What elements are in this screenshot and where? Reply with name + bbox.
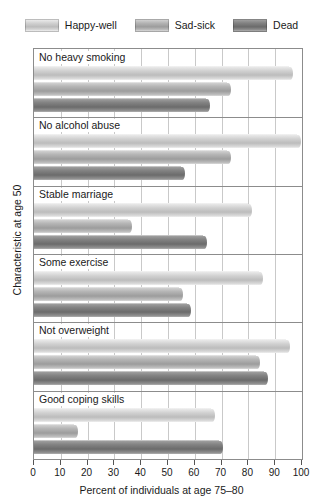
- bar-group: No alcohol abuse: [34, 117, 302, 185]
- legend-label-dead: Dead: [273, 20, 298, 31]
- bar-sad-sick: [34, 82, 227, 96]
- legend-item-dead: Dead: [233, 19, 298, 32]
- bar-cap: [255, 356, 260, 369]
- x-tick: [274, 460, 275, 465]
- legend-swatch-sad-sick: [135, 19, 169, 32]
- bar-cap: [258, 272, 263, 285]
- x-tick-label: 100: [293, 467, 310, 478]
- x-tick-label: 60: [188, 467, 199, 478]
- category-label: No heavy smoking: [38, 51, 127, 64]
- bar-cap: [263, 372, 268, 385]
- bar-cap: [186, 304, 191, 317]
- y-axis-title: Characteristic at age 50: [11, 165, 23, 315]
- bar-dead: [34, 235, 203, 249]
- x-tick: [60, 460, 61, 465]
- x-tick: [247, 460, 248, 465]
- x-tick: [301, 460, 302, 465]
- bar-cap: [127, 220, 132, 233]
- category-label: Stable marriage: [38, 188, 115, 201]
- bar-cap: [226, 83, 231, 96]
- bar-cap: [218, 441, 223, 454]
- x-tick: [87, 460, 88, 465]
- group-separator: [34, 391, 302, 392]
- bar-dead: [34, 371, 264, 385]
- bar-cap: [202, 236, 207, 249]
- bar-group: Good coping skills: [34, 391, 302, 459]
- bar-happy-well: [34, 339, 286, 353]
- bar-cap: [288, 67, 293, 80]
- x-tick-label: 20: [81, 467, 92, 478]
- x-tick: [113, 460, 114, 465]
- bar-dead: [34, 440, 219, 454]
- bar-happy-well: [34, 134, 297, 148]
- bar-cap: [205, 99, 210, 112]
- bar-sad-sick: [34, 219, 128, 233]
- group-separator: [34, 254, 302, 255]
- bar-sad-sick: [34, 355, 256, 369]
- bar-happy-well: [34, 203, 248, 217]
- x-axis-title: Percent of individuals at age 75–80: [0, 484, 323, 496]
- bar-cap: [226, 151, 231, 164]
- bar-cap: [285, 340, 290, 353]
- bar-group: No heavy smoking: [34, 49, 302, 117]
- bar-happy-well: [34, 271, 259, 285]
- bar-group: Not overweight: [34, 322, 302, 390]
- x-tick-label: 10: [54, 467, 65, 478]
- bar-sad-sick: [34, 150, 227, 164]
- bar-sad-sick: [34, 424, 74, 438]
- bar-sad-sick: [34, 287, 179, 301]
- chart-legend: Happy-well Sad-sick Dead: [0, 14, 323, 36]
- legend-label-sad-sick: Sad-sick: [175, 20, 215, 31]
- x-tick: [221, 460, 222, 465]
- category-label: Not overweight: [38, 324, 111, 337]
- x-tick-label: 40: [135, 467, 146, 478]
- x-tick: [167, 460, 168, 465]
- x-tick-label: 90: [269, 467, 280, 478]
- category-label: Some exercise: [38, 256, 110, 269]
- bar-dead: [34, 98, 206, 112]
- bar-happy-well: [34, 66, 289, 80]
- category-label: No alcohol abuse: [38, 119, 122, 132]
- legend-item-happy-well: Happy-well: [25, 19, 117, 32]
- bar-happy-well: [34, 408, 211, 422]
- x-tick: [194, 460, 195, 465]
- x-tick: [33, 460, 34, 465]
- x-tick-label: 70: [215, 467, 226, 478]
- legend-item-sad-sick: Sad-sick: [135, 19, 215, 32]
- legend-swatch-happy-well: [25, 19, 59, 32]
- bar-cap: [73, 425, 78, 438]
- bar-cap: [178, 288, 183, 301]
- bar-dead: [34, 166, 181, 180]
- legend-swatch-dead: [233, 19, 267, 32]
- bar-cap: [247, 204, 252, 217]
- category-label: Good coping skills: [38, 393, 126, 406]
- bar-chart: Happy-well Sad-sick Dead No heavy smokin…: [0, 0, 323, 504]
- group-separator: [34, 186, 302, 187]
- bar-cap: [296, 135, 301, 148]
- group-separator: [34, 322, 302, 323]
- x-tick-label: 30: [108, 467, 119, 478]
- x-tick-label: 50: [161, 467, 172, 478]
- bar-dead: [34, 303, 187, 317]
- x-tick-label: 80: [242, 467, 253, 478]
- plot-area: No heavy smokingNo alcohol abuseStable m…: [33, 48, 303, 460]
- bar-group: Stable marriage: [34, 186, 302, 254]
- gridline: [302, 49, 303, 459]
- group-separator: [34, 117, 302, 118]
- x-tick-label: 0: [30, 467, 36, 478]
- legend-label-happy-well: Happy-well: [65, 20, 117, 31]
- bar-group: Some exercise: [34, 254, 302, 322]
- x-tick: [140, 460, 141, 465]
- bar-cap: [180, 167, 185, 180]
- bar-cap: [210, 409, 215, 422]
